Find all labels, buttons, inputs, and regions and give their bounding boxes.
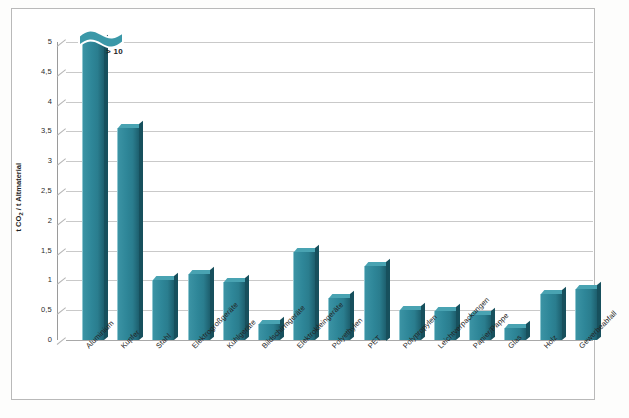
tick-connector [57,188,66,196]
tick-connector [57,218,66,226]
y-axis-tick-label: 5 [26,37,52,46]
gridline [66,102,593,103]
y-axis-tick-label: 2,5 [26,186,52,195]
gridline [66,191,593,192]
gridline [66,131,593,132]
y-axis-tick-label: 0,5 [26,305,52,314]
tick-connector [57,308,66,316]
gridline [66,280,593,281]
tick-connector [57,129,66,137]
bar-side-face [386,258,390,340]
y-axis-title: t CO2 / t Altmaterial [14,142,25,252]
gridline [66,161,593,162]
bar-holz [540,294,562,340]
gridline [66,42,593,43]
y-axis-tick-label: 1 [26,275,52,284]
bar-side-face [526,321,530,340]
overflow-annotation-label: > 10 [106,47,123,56]
y-axis-tick-label: 3 [26,156,52,165]
y-axis-tick-label: 1,5 [26,246,52,255]
bar-aluminium [82,42,104,340]
tick-connector [57,248,66,256]
tick-connector [57,99,66,107]
y-axis-tick-label: 0 [26,335,52,344]
tick-connector [57,39,66,47]
bar-stahl [152,280,174,340]
bar-chart: 54,543,532,521,510,50 t CO2 / t Altmater… [0,0,629,418]
bar-side-face [174,273,178,340]
bar-side-face [104,35,108,340]
bar-side-face [139,121,143,340]
bar-kupfer [117,128,139,340]
bar-side-face [562,286,566,340]
gridline [66,72,593,73]
tick-connector [57,159,66,167]
y-axis-line [57,42,58,340]
tick-connector [57,69,66,77]
y-axis-tick-label: 4 [26,97,52,106]
tick-connector [57,337,66,345]
gridline [66,221,593,222]
tick-connector [57,278,66,286]
bar-pet [364,266,386,341]
y-axis-tick-label: 4,5 [26,67,52,76]
y-axis-tick-label: 2 [26,216,52,225]
gridline [66,251,593,252]
y-axis-tick-labels: 54,543,532,521,510,50 [22,0,52,418]
y-axis-tick-label: 3,5 [26,126,52,135]
